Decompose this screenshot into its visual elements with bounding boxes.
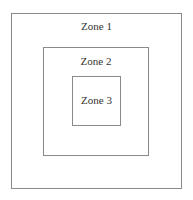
zone-3-box: Zone 3 xyxy=(72,76,121,126)
zone-1-label: Zone 1 xyxy=(12,20,181,32)
zone-3-label: Zone 3 xyxy=(73,94,120,106)
zone-2-label: Zone 2 xyxy=(44,55,148,67)
